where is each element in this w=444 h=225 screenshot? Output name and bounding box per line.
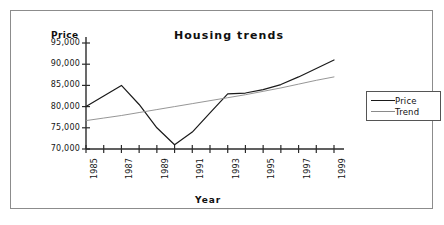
legend-label-trend: Trend (395, 107, 419, 117)
x-tick-label: 1987 (125, 158, 134, 179)
x-tick-label: 1995 (267, 158, 276, 179)
y-tick-label: 80,000 (34, 102, 80, 111)
legend-line-trend-icon (369, 107, 395, 116)
x-tick-label: 1985 (90, 158, 99, 179)
legend-line-price-icon (369, 96, 395, 105)
x-tick-label: 1993 (232, 158, 241, 179)
chart-frame: Housing trends Price Year 95,00090,00085… (10, 10, 433, 209)
data-series (86, 60, 334, 145)
x-tick-label: 1991 (196, 158, 205, 179)
y-tick-label: 75,000 (34, 123, 80, 132)
y-tick-label: 70,000 (34, 144, 80, 153)
x-tick-label: 1999 (338, 158, 347, 179)
axes (82, 37, 344, 153)
chart-image: Housing trends Price Year 95,00090,00085… (0, 0, 444, 225)
legend-item-trend: Trend (369, 106, 438, 117)
x-tick-label: 1997 (303, 158, 312, 179)
legend-item-price: Price (369, 95, 438, 106)
y-tick-label: 85,000 (34, 80, 80, 89)
legend-label-price: Price (395, 96, 417, 106)
y-tick-label: 95,000 (34, 38, 80, 47)
y-tick-label: 90,000 (34, 59, 80, 68)
chart-legend: Price Trend (366, 91, 441, 121)
x-tick-label: 1989 (161, 158, 170, 179)
